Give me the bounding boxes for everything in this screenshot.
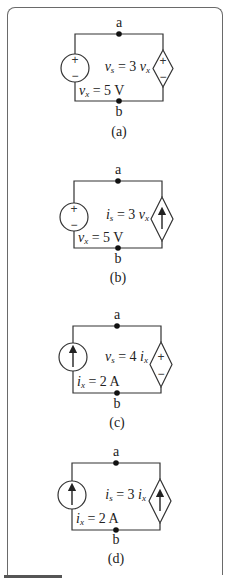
independent-source-label: vx = 5 V [78,230,123,246]
independent-source-label: vx = 5 V [79,83,124,99]
svg-text:+: + [157,350,164,364]
node-b-label: b [113,532,120,547]
node-a-label: a [115,162,122,177]
dependent-source-label: vs = 4 ix [105,349,148,365]
svg-text:+: + [71,53,78,67]
svg-text:−: − [70,218,77,232]
dependent-source-label: is = 3 vx [106,207,149,223]
svg-text:−: − [157,367,164,381]
circuits-diagram: a b + − + − vs = 3 vx vx = 5 V (a) a b +… [0,0,229,578]
dependent-voltage-source-icon: + − [150,342,172,387]
dependent-source-label: is = 3 ix [105,487,146,503]
circuit-caption: (d) [108,551,125,567]
independent-current-source-icon [58,481,86,509]
node-a-dot [116,31,122,37]
node-a-dot [114,323,120,329]
node-b-label: b [115,251,122,266]
node-b-dot [114,390,120,396]
circuit-d: a b is = 3 ix ix = 2 A (d) [58,444,171,567]
node-a-label: a [114,307,121,322]
dependent-current-source-icon [151,197,173,241]
node-b-dot [115,245,121,251]
svg-text:−: − [71,69,78,83]
circuit-caption: (c) [109,415,125,431]
node-b-label: b [116,104,123,119]
node-b-label: b [114,396,121,411]
independent-voltage-source-icon: + − [61,53,89,83]
circuit-c: a b + − vs = 4 ix ix = 2 A (c) [59,307,172,431]
dependent-current-source-icon [149,479,171,523]
svg-text:−: − [159,70,166,84]
svg-text:+: + [159,54,166,68]
circuit-a: a b + − + − vs = 3 vx vx = 5 V (a) [61,15,173,140]
independent-voltage-source-icon: + − [60,202,88,232]
circuit-caption: (b) [110,270,127,286]
svg-text:+: + [70,202,77,216]
circuit-caption: (a) [111,124,127,140]
independent-current-source-icon [59,343,87,371]
dependent-voltage-source-icon: + − [153,50,173,87]
node-a-dot [115,178,121,184]
independent-source-label: ix = 2 A [76,511,120,527]
dependent-source-label: vs = 3 vx [105,59,150,75]
circuit-b: a b + − is = 3 vx vx = 5 V (b) [60,162,173,286]
independent-source-label: ix = 2 A [77,374,121,390]
node-a-label: a [116,15,123,30]
node-a-dot [113,460,119,466]
node-a-label: a [113,444,120,459]
node-b-dot [116,98,122,104]
